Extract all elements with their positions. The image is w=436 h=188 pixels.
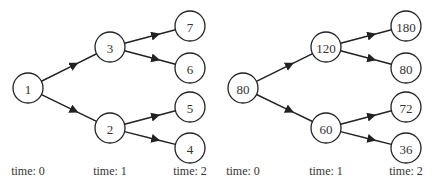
edge-value-tree-a-b: [256, 54, 312, 82]
tree-node-value-tree-e: 80: [391, 53, 421, 83]
tree-node-index-tree-a: 1: [13, 73, 43, 103]
time-label-index-tree-0: time: 0: [11, 164, 45, 179]
node-label: 3: [107, 41, 114, 56]
edge-value-tree-a-c: [257, 95, 313, 122]
edge-index-tree-c-f: [125, 111, 176, 124]
node-label: 72: [400, 101, 413, 116]
node-label: 80: [237, 82, 250, 97]
tree-node-index-tree-b: 3: [95, 32, 125, 62]
node-label: 80: [400, 62, 413, 77]
tree-node-value-tree-b: 120: [311, 32, 341, 62]
node-label: 2: [107, 122, 114, 137]
nodes-layer: 13276548012060180807236: [13, 11, 421, 163]
tree-node-index-tree-c: 2: [95, 113, 125, 143]
node-label: 60: [320, 122, 333, 137]
binomial-tree-diagram: 13276548012060180807236: [0, 0, 436, 188]
tree-node-index-tree-e: 6: [175, 53, 205, 83]
edge-value-tree-b-e: [341, 51, 392, 64]
tree-node-value-tree-c: 60: [311, 113, 341, 143]
tree-node-index-tree-d: 7: [175, 11, 205, 41]
node-label: 36: [400, 142, 414, 157]
node-label: 1: [25, 82, 32, 97]
edge-value-tree-c-f: [341, 111, 392, 124]
tree-node-index-tree-g: 4: [175, 133, 205, 163]
edge-index-tree-a-c: [41, 95, 96, 122]
tree-node-index-tree-f: 5: [175, 92, 205, 122]
time-label-index-tree-1: time: 1: [93, 164, 127, 179]
time-label-value-tree-1: time: 1: [309, 164, 343, 179]
edge-index-tree-c-g: [125, 132, 176, 145]
node-label: 7: [187, 20, 194, 35]
edge-index-tree-a-b: [41, 54, 96, 82]
tree-node-value-tree-g: 36: [391, 133, 421, 163]
edge-value-tree-c-g: [341, 132, 392, 145]
node-label: 120: [316, 41, 336, 56]
edge-value-tree-b-d: [341, 30, 392, 43]
time-label-value-tree-2: time: 2: [389, 164, 423, 179]
node-label: 4: [187, 142, 194, 157]
node-label: 5: [187, 101, 194, 116]
edge-index-tree-b-e: [125, 51, 176, 64]
tree-node-value-tree-f: 72: [391, 92, 421, 122]
time-label-index-tree-2: time: 2: [173, 164, 207, 179]
tree-node-value-tree-a: 80: [228, 73, 258, 103]
edge-index-tree-b-d: [125, 30, 176, 43]
node-label: 6: [187, 62, 194, 77]
tree-node-value-tree-d: 180: [391, 11, 421, 41]
node-label: 180: [396, 20, 416, 35]
time-label-value-tree-0: time: 0: [226, 164, 260, 179]
